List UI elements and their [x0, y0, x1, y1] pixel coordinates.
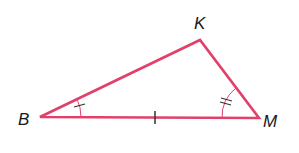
triangle-bkm [40, 40, 259, 118]
angle-b-arc [77, 99, 81, 117]
angle-m-tick-2 [220, 102, 231, 105]
label-m: M [263, 112, 278, 131]
label-k: K [194, 14, 206, 33]
triangle-diagram: K B M [0, 0, 299, 153]
label-b: B [18, 110, 29, 129]
